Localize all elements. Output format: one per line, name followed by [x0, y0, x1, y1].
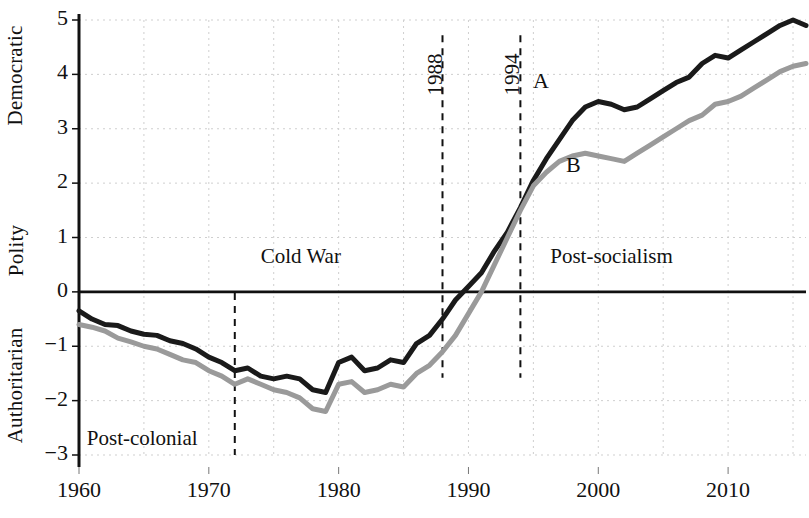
y-tick-label: 5: [22, 5, 68, 31]
era-label: Post-colonial: [87, 426, 198, 451]
y-tick-label: 4: [22, 59, 68, 85]
event-year-label: 1994: [500, 45, 525, 105]
x-tick-label: 1970: [154, 477, 264, 503]
x-tick-label: 1960: [24, 477, 134, 503]
y-tick-label: 3: [22, 114, 68, 140]
chart-root: Democratic Polity Authoritarian −3−2−101…: [0, 0, 809, 518]
x-tick-label: 2010: [673, 477, 783, 503]
x-tick-label: 1980: [284, 477, 394, 503]
y-tick-label: −1: [22, 331, 68, 357]
series-label-B: B: [566, 152, 581, 178]
series-label-A: A: [533, 68, 549, 94]
y-tick-label: 1: [22, 223, 68, 249]
x-tick-label: 2000: [543, 477, 653, 503]
y-tick-label: −2: [22, 386, 68, 412]
y-tick-label: 2: [22, 168, 68, 194]
x-tick-label: 1990: [413, 477, 523, 503]
y-tick-label: 0: [22, 277, 68, 303]
era-label: Cold War: [261, 244, 341, 269]
y-tick-label: −3: [22, 440, 68, 466]
event-year-label: 1988: [422, 45, 447, 105]
era-label: Post-socialism: [550, 244, 673, 269]
